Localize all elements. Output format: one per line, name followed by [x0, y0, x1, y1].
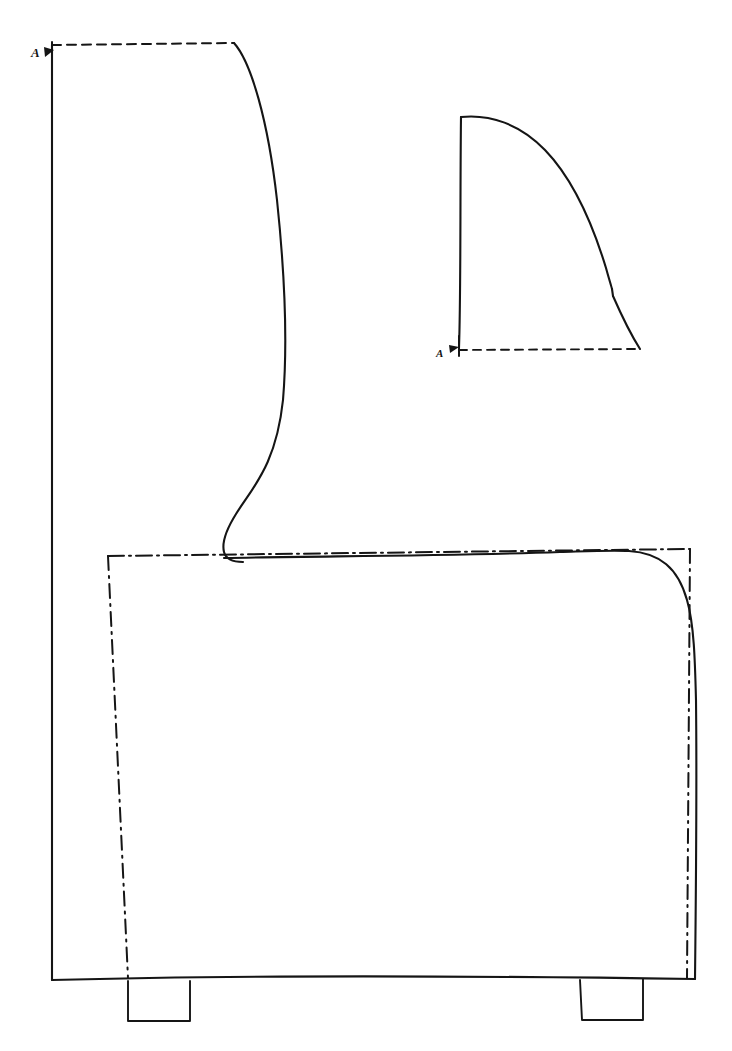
construction-line-left-vertical — [108, 556, 128, 978]
elevation-top-hidden-line — [52, 43, 234, 45]
section-label-a-top-left: A — [30, 45, 40, 60]
section-top-curve — [461, 116, 612, 289]
section-mark-top-left: A — [30, 42, 54, 74]
elevation-front-rounded-corner — [629, 551, 696, 700]
elevation-base-line — [52, 976, 695, 980]
construction-line-right-vertical — [687, 549, 690, 978]
section-a-a-view — [459, 116, 640, 350]
section-mark-section-view: A — [435, 336, 459, 359]
section-lower-flank — [613, 296, 640, 349]
section-label-a-section-view: A — [435, 347, 443, 359]
section-arrow-head-section-view — [449, 345, 459, 353]
elevation-backrest-curve — [224, 43, 286, 562]
section-base-hidden-line — [459, 349, 640, 350]
section-notch — [612, 289, 613, 296]
technical-drawing-canvas: A A — [0, 0, 732, 1051]
drawing-sheet: A A — [0, 0, 732, 1051]
construction-lines — [108, 549, 690, 978]
elevation-front-edge — [695, 700, 696, 979]
section-left-edge — [459, 117, 461, 348]
elevation-foot-right — [580, 979, 643, 1020]
elevation-foot-left — [128, 981, 190, 1021]
side-elevation-view — [52, 43, 697, 1021]
elevation-back-edge — [52, 45, 53, 980]
